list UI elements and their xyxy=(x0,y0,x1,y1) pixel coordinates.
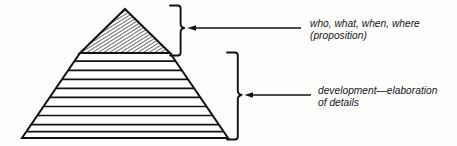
figure-canvas: who, what, when, where (proposition) dev… xyxy=(0,0,457,146)
brace-bottom xyxy=(227,53,242,140)
annotation-development: development—elaboration of details xyxy=(318,85,437,110)
annotation-development-line-1: development—elaboration xyxy=(318,85,437,97)
annotation-proposition-line-2: (proposition) xyxy=(310,30,420,42)
annotation-proposition-line-1: who, what, when, where xyxy=(310,18,420,30)
annotation-development-line-2: of details xyxy=(318,97,437,109)
brace-top xyxy=(170,6,185,56)
annotation-proposition: who, what, when, where (proposition) xyxy=(310,18,420,43)
arrow-bottom xyxy=(245,92,312,97)
pyramid-base-bands xyxy=(22,53,228,138)
arrow-top xyxy=(188,25,302,30)
